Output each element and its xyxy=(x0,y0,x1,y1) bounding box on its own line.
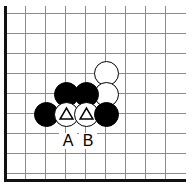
grid-line-vertical xyxy=(145,6,146,181)
point-label-b: B xyxy=(79,133,97,149)
grid-line-vertical xyxy=(165,6,166,181)
grid-line-horizontal xyxy=(5,53,186,54)
grid-line-horizontal xyxy=(5,173,186,174)
go-stone-black xyxy=(94,102,119,127)
grid-line-horizontal xyxy=(5,153,186,154)
grid-line-horizontal xyxy=(5,13,186,14)
grid-line-vertical xyxy=(45,6,46,181)
grid-line-vertical xyxy=(125,6,126,181)
board-bottom-border xyxy=(4,179,186,182)
go-board-diagram: A B xyxy=(0,0,194,189)
point-label-a: A xyxy=(59,133,77,149)
grid-line-vertical xyxy=(25,6,26,181)
grid-line-horizontal xyxy=(5,33,186,34)
board-left-border xyxy=(4,6,7,181)
